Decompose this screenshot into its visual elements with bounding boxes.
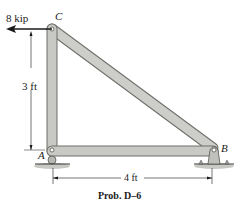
load-label: 8 kip [6, 12, 28, 24]
member-cb [52, 29, 213, 148]
horizontal-dimension-label: 4 ft [124, 172, 138, 183]
truss-diagram [0, 0, 242, 208]
joint-c-label: C [55, 10, 62, 22]
joint-a-pin [50, 148, 54, 152]
joint-a-label: A [38, 149, 45, 161]
figure-caption: Prob. D–6 [98, 190, 141, 201]
vertical-dimension-label: 3 ft [22, 80, 37, 92]
joint-b-label: B [221, 142, 228, 154]
load-arrow [6, 25, 52, 33]
